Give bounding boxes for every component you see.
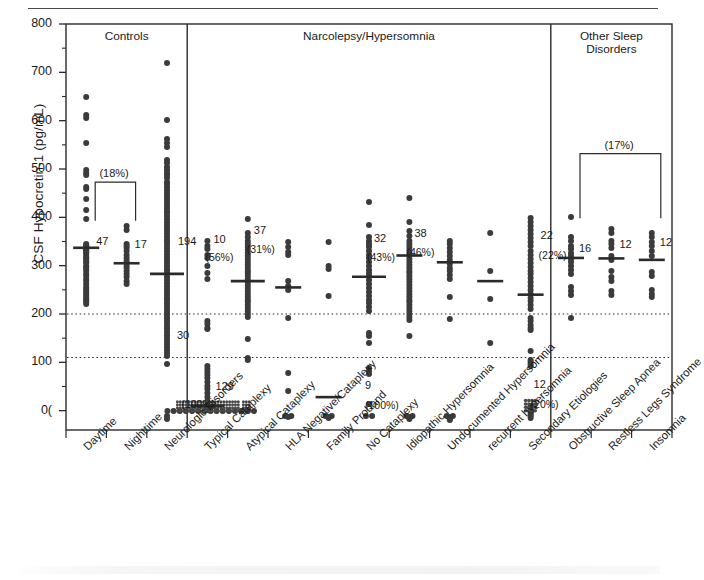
data-point <box>447 417 453 423</box>
data-point <box>83 196 89 202</box>
n-label-12: 16 <box>579 242 591 254</box>
data-point <box>649 273 655 279</box>
data-point <box>164 353 170 359</box>
data-point-dense <box>228 403 231 406</box>
data-point <box>568 271 574 277</box>
data-point <box>406 317 412 323</box>
y-tick-label: 0( <box>8 403 52 417</box>
data-point <box>285 252 291 258</box>
n-label-13: 12 <box>619 238 631 250</box>
data-point <box>164 361 170 367</box>
data-point <box>366 340 372 346</box>
y-tick-label: 500 <box>8 161 52 175</box>
data-point <box>447 294 453 300</box>
data-point <box>366 222 372 228</box>
data-point <box>406 333 412 339</box>
data-point <box>83 216 89 222</box>
data-point <box>406 219 412 225</box>
y-tick-label: 700 <box>8 64 52 78</box>
data-point <box>326 293 332 299</box>
data-point <box>204 326 210 332</box>
data-point <box>568 214 574 220</box>
data-point-dense <box>228 406 231 409</box>
data-point <box>649 294 655 300</box>
data-point <box>245 357 251 363</box>
data-point <box>164 117 170 123</box>
data-point <box>83 172 89 178</box>
data-point <box>83 115 89 121</box>
panel-title-other-line: Disorders <box>531 43 691 56</box>
data-point <box>487 230 493 236</box>
data-point <box>245 336 251 342</box>
data-point-dense <box>222 409 225 412</box>
pct-label-11: (22%) <box>539 249 567 261</box>
data-point-dense <box>176 403 179 406</box>
data-point <box>171 408 177 414</box>
data-point-dense <box>176 406 179 409</box>
data-point-dense <box>225 406 228 409</box>
y-tick-label: 400 <box>8 209 52 223</box>
panel-title-narcolepsy: Narcolepsy/Hypersomnia <box>289 30 449 43</box>
data-point <box>245 314 251 320</box>
panel-title-controls: Controls <box>47 30 207 43</box>
n-low-label-7: 9 <box>365 379 371 391</box>
data-point <box>124 227 130 233</box>
data-point <box>124 281 130 287</box>
data-point <box>285 315 291 321</box>
data-point <box>83 94 89 100</box>
data-point-dense <box>231 400 234 403</box>
y-tick-label: 600 <box>8 113 52 127</box>
data-point <box>608 245 614 251</box>
data-point <box>487 340 493 346</box>
data-point-dense <box>225 400 228 403</box>
data-point-dense <box>225 409 228 412</box>
data-point-dense <box>234 403 237 406</box>
n-label-8: 38 <box>414 227 426 239</box>
data-point-dense <box>176 400 179 403</box>
data-point <box>447 276 453 282</box>
data-point <box>245 216 251 222</box>
y-tick-label: 200 <box>8 306 52 320</box>
data-point <box>164 60 170 66</box>
n-label-0: 47 <box>96 235 108 247</box>
data-point <box>487 296 493 302</box>
controls-bracket-label: (18%) <box>99 167 128 179</box>
data-point-dense <box>225 403 228 406</box>
data-point-dense <box>228 400 231 403</box>
data-point <box>204 276 210 282</box>
panel-title-controls-line: Controls <box>47 30 207 43</box>
data-point-dense <box>234 400 237 403</box>
data-point <box>528 306 534 312</box>
data-point <box>83 207 89 213</box>
data-point <box>164 408 170 414</box>
pct-label-3: (56%) <box>205 251 233 263</box>
data-point <box>204 263 210 269</box>
data-point <box>366 199 372 205</box>
pct-label-7: (43%) <box>367 251 395 263</box>
data-point <box>528 348 534 354</box>
data-point <box>487 268 493 274</box>
y-tick-label: 100 <box>8 354 52 368</box>
n-label-4: 37 <box>254 224 266 236</box>
data-point <box>204 270 210 276</box>
data-point <box>326 266 332 272</box>
data-point <box>164 144 170 150</box>
data-point-dense <box>176 409 179 412</box>
other-bracket-label: (17%) <box>604 139 633 151</box>
n-label-7: 32 <box>374 232 386 244</box>
n-label-14: 12 <box>660 236 672 248</box>
data-point <box>164 416 170 422</box>
n-label-1: 17 <box>135 238 147 250</box>
data-point-dense <box>231 403 234 406</box>
n-label-2: 194 <box>178 235 196 247</box>
data-point-dense <box>231 406 234 409</box>
n2-label-2: 30 <box>177 329 189 341</box>
panel-title-narcolepsy-line: Narcolepsy/Hypersomnia <box>289 30 449 43</box>
data-point <box>608 278 614 284</box>
data-point <box>608 268 614 274</box>
caption-strip <box>20 566 660 574</box>
y-tick-label: 800 <box>8 16 52 30</box>
data-point <box>406 195 412 201</box>
